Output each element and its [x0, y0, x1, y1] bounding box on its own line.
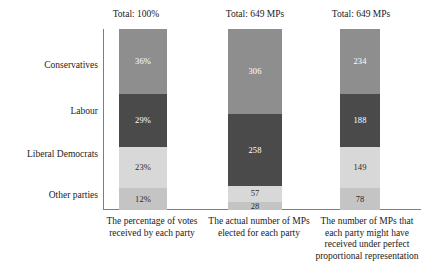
stacked-bar-chart: Total: 100% Total: 649 MPs Total: 649 MP… [0, 0, 424, 276]
segment-conservatives: 36% [119, 29, 167, 94]
column-header-actual-mps: Total: 649 MPs [202, 9, 308, 19]
segment-value: 29% [135, 116, 151, 125]
segment-value: 57 [251, 189, 260, 198]
segment-labour: 29% [119, 94, 167, 146]
segment-labour: 188 [340, 94, 380, 146]
segment-labour: 258 [228, 114, 282, 186]
segment-conservatives: 234 [340, 29, 380, 94]
column-header-proportional-mps: Total: 649 MPs [306, 9, 416, 19]
segment-other-parties: 28 [228, 202, 282, 211]
bar-votes-percentage: 36% 29% 23% 12% [119, 29, 167, 210]
caption-actual-mps: The actual number of MPs elected for eac… [207, 216, 311, 239]
caption-votes-percentage: The percentage of votes received by each… [100, 216, 204, 239]
caption-proportional-mps: The number of MPs that each party might … [313, 216, 421, 262]
row-label-other-parties: Other parties [0, 190, 98, 200]
column-header-votes-percentage: Total: 100% [96, 9, 176, 19]
segment-other-parties: 12% [119, 188, 167, 210]
segment-value: 234 [353, 57, 366, 66]
segment-value: 23% [135, 163, 151, 172]
bar-proportional-mps: 234 188 149 78 [340, 29, 380, 210]
segment-value: 28 [251, 202, 260, 211]
segment-other-parties: 78 [340, 188, 380, 210]
row-label-liberal-democrats: Liberal Democrats [0, 149, 98, 159]
segment-conservatives: 306 [228, 29, 282, 114]
row-label-conservatives: Conservatives [0, 60, 98, 70]
segment-value: 188 [353, 116, 366, 125]
segment-liberal-democrats: 57 [228, 186, 282, 202]
segment-liberal-democrats: 23% [119, 147, 167, 189]
segment-liberal-democrats: 149 [340, 147, 380, 189]
segment-value: 258 [248, 146, 261, 155]
segment-value: 36% [135, 57, 151, 66]
row-label-labour: Labour [0, 106, 98, 116]
segment-value: 12% [135, 195, 151, 204]
axis-vertical-line [103, 29, 104, 210]
segment-value: 149 [353, 163, 366, 172]
segment-value: 306 [248, 67, 261, 76]
segment-value: 78 [356, 195, 365, 204]
bar-actual-mps: 306 258 57 28 [228, 29, 282, 210]
